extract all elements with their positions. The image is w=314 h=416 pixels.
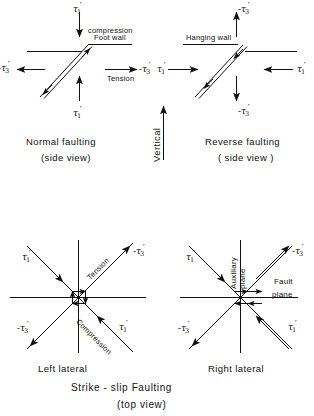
reverse-stress-bottom-symbol: -τ3′ bbox=[238, 104, 250, 117]
left-lateral-stress-lower-right: τ1′ bbox=[119, 320, 128, 333]
normal-stress-right-symbol: -τ3′ bbox=[139, 62, 151, 75]
vertical-axis-label: Vertical bbox=[152, 128, 162, 162]
foot-wall-label: Foot wall bbox=[94, 34, 126, 42]
fault-plane-label-line1: Fault bbox=[274, 277, 293, 286]
hanging-wall-label: Hanging wall bbox=[186, 34, 231, 42]
right-lateral-stress-lower-left: -τ3′ bbox=[178, 321, 190, 334]
left-lateral-stress-upper-right: -τ3′ bbox=[133, 244, 145, 257]
normal-stress-bottom-symbol: τ1′ bbox=[73, 106, 82, 119]
right-lateral-title: Right lateral bbox=[208, 364, 264, 374]
reverse-faulting-title: Reverse faulting bbox=[205, 137, 280, 147]
fault-plane-label-line2: plane bbox=[272, 290, 293, 299]
auxiliary-plane-label-line1: Auxiliary bbox=[229, 257, 238, 289]
tension-label: Tension bbox=[107, 75, 134, 83]
reverse-stress-right-symbol: τ1′ bbox=[297, 62, 306, 75]
left-lateral-stress-upper-left: τ1′ bbox=[22, 250, 31, 263]
figure-title: Strike - slip Faulting bbox=[71, 383, 172, 393]
reverse-stress-left-symbol: τ1′ bbox=[157, 62, 166, 75]
normal-stress-top-symbol: τ1′ bbox=[73, 2, 82, 15]
normal-stress-left-symbol: -τ3′ bbox=[0, 61, 10, 74]
right-lateral-stress-upper-left: τ1′ bbox=[186, 250, 195, 263]
reverse-stress-top-symbol: -τ3′ bbox=[238, 2, 250, 15]
figure-subtitle: (top view) bbox=[117, 400, 166, 410]
right-lateral-stress-upper-right: -τ3′ bbox=[292, 244, 304, 257]
reverse-faulting-view: ( side view ) bbox=[218, 153, 274, 163]
normal-faulting-title: Normal faulting bbox=[26, 137, 96, 147]
left-lateral-title: Left lateral bbox=[38, 364, 87, 374]
faulting-diagram-figure: τ1′ compression Foot wall -τ3′ Tension -… bbox=[0, 0, 314, 416]
right-lateral-stress-lower-right: τ1′ bbox=[288, 320, 297, 333]
left-lateral-stress-lower-left: -τ3′ bbox=[17, 321, 29, 334]
normal-faulting-view: (side view) bbox=[41, 153, 91, 163]
auxiliary-plane-label-line2: plane bbox=[238, 268, 247, 289]
